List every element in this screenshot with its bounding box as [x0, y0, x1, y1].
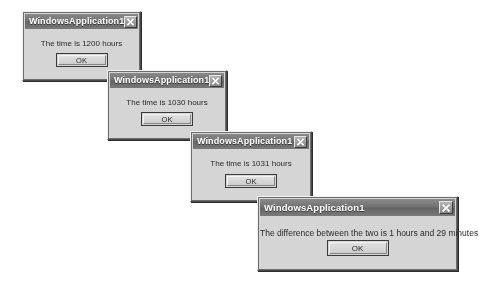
- ok-button-label-4: OK: [329, 242, 387, 254]
- dialog-body-2: The time is 1030 hours OK: [110, 88, 224, 137]
- close-x-icon[interactable]: [209, 75, 222, 87]
- dialog-message-2: The time is 1030 hours: [110, 99, 224, 108]
- ok-button-3[interactable]: OK: [225, 174, 277, 188]
- dialog-body-4: The difference between the two is 1 hour…: [260, 216, 455, 268]
- titlebar-3[interactable]: WindowsApplication1: [193, 134, 309, 149]
- screenshot-stage: WindowsApplication1 The time is 1200 hou…: [0, 0, 479, 282]
- ok-button-label-3: OK: [227, 176, 275, 186]
- dialog-inner-2: WindowsApplication1 The time is 1030 hou…: [110, 73, 224, 137]
- ok-button-label-1: OK: [58, 55, 106, 65]
- dialog-inner-1: WindowsApplication1 The time is 1200 hou…: [25, 14, 138, 78]
- close-x-icon[interactable]: [294, 136, 307, 148]
- titlebar-2[interactable]: WindowsApplication1: [110, 73, 224, 88]
- dialog-title-1: WindowsApplication1: [29, 17, 124, 26]
- dialog-message-3: The time is 1031 hours: [193, 160, 309, 169]
- titlebar-4[interactable]: WindowsApplication1: [260, 199, 455, 216]
- titlebar-1[interactable]: WindowsApplication1: [25, 14, 138, 29]
- ok-button-4[interactable]: OK: [327, 240, 389, 256]
- dialog-title-3: WindowsApplication1: [197, 137, 292, 146]
- dialog-body-3: The time is 1031 hours OK: [193, 149, 309, 199]
- message-dialog-4[interactable]: WindowsApplication1 The difference betwe…: [257, 196, 458, 271]
- message-dialog-3[interactable]: WindowsApplication1 The time is 1031 hou…: [190, 131, 312, 202]
- dialog-message-4: The difference between the two is 1 hour…: [260, 229, 455, 238]
- ok-button-label-2: OK: [143, 114, 191, 124]
- close-x-icon[interactable]: [439, 201, 453, 214]
- dialog-title-2: WindowsApplication1: [114, 76, 209, 85]
- dialog-title-4: WindowsApplication1: [264, 203, 365, 213]
- ok-button-1[interactable]: OK: [56, 53, 108, 67]
- close-x-icon[interactable]: [124, 16, 137, 28]
- dialog-message-1: The time is 1200 hours: [25, 40, 138, 49]
- dialog-inner-4: WindowsApplication1 The difference betwe…: [260, 199, 455, 268]
- message-dialog-2[interactable]: WindowsApplication1 The time is 1030 hou…: [107, 70, 227, 140]
- dialog-inner-3: WindowsApplication1 The time is 1031 hou…: [193, 134, 309, 199]
- ok-button-2[interactable]: OK: [141, 112, 193, 126]
